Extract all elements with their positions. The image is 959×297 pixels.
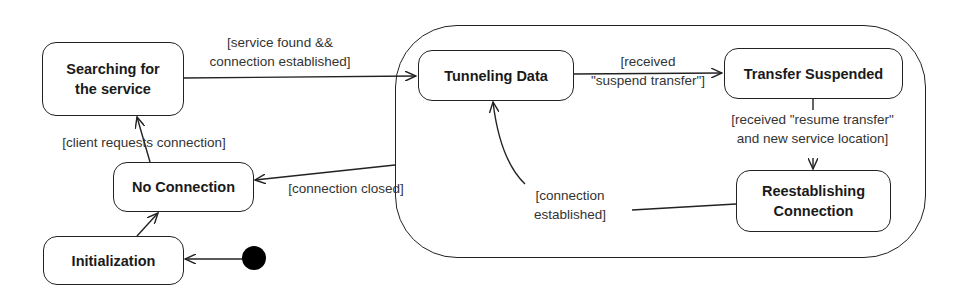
guard-connection-closed: [connection closed] (278, 179, 414, 198)
guard-resume-transfer: [received "resume transfer" and new serv… (715, 110, 910, 148)
guard-connection-established: [connection established] (520, 186, 620, 224)
transition-initialization-to-no-connection (137, 213, 158, 236)
state-reestablishing-connection[interactable]: Reestablishing Connection (736, 170, 891, 232)
state-label: Transfer Suspended (744, 64, 883, 84)
guard-client-requests-connection: [client requests connection] (48, 133, 240, 152)
guard-suspend-transfer: [received "suspend transfer"] (580, 52, 716, 90)
state-no-connection[interactable]: No Connection (113, 162, 254, 212)
state-searching-for-service[interactable]: Searching for the service (42, 42, 184, 116)
state-label: Initialization (72, 251, 156, 271)
state-label: Connection (762, 201, 865, 221)
state-label: Tunneling Data (444, 66, 548, 86)
initial-state-dot (242, 246, 266, 270)
state-label: Reestablishing (762, 181, 865, 201)
transition-searching-to-tunneling (183, 76, 416, 78)
transition-superstate-to-no-connection (255, 165, 395, 180)
state-tunneling-data[interactable]: Tunneling Data (418, 50, 574, 101)
state-label: No Connection (132, 177, 235, 197)
state-label: Searching for (66, 59, 159, 79)
state-transfer-suspended[interactable]: Transfer Suspended (724, 48, 903, 99)
state-label: the service (66, 79, 159, 99)
state-initialization[interactable]: Initialization (43, 236, 184, 285)
guard-service-found: [service found && connection established… (190, 33, 370, 71)
